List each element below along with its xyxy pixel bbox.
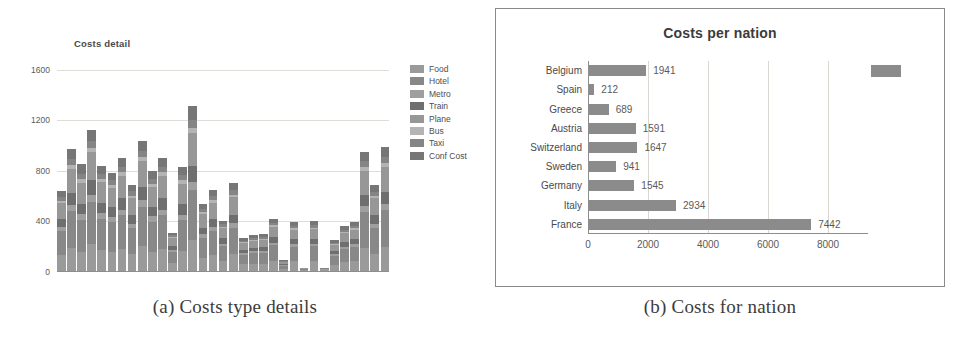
chart-b-bar — [588, 161, 616, 172]
legend-swatch-icon — [410, 102, 424, 110]
chart-a-bar — [77, 164, 86, 270]
chart-a-bar-segment — [108, 207, 117, 217]
chart-a-bar-segment — [57, 203, 66, 219]
chart-a-bar-segment — [158, 176, 167, 198]
chart-a-bar-segment — [138, 187, 147, 200]
chart-b-value-label: 1647 — [644, 142, 666, 153]
chart-a-bar-segment — [118, 176, 127, 198]
chart-a-bar-segment — [108, 188, 117, 208]
chart-b-x-axis — [588, 233, 868, 234]
chart-a-bar-segment — [199, 214, 208, 227]
chart-a-legend-item: Food — [410, 64, 467, 74]
chart-a-bar — [138, 141, 147, 271]
chart-a-bar-segment — [77, 164, 86, 174]
chart-a-y-tick-label: 1200 — [31, 115, 50, 125]
chart-a-bar — [168, 233, 177, 271]
chart-a-y-tick-label: 1600 — [31, 65, 50, 75]
caption-b: (b) Costs for nation — [500, 296, 940, 318]
chart-b-bar — [588, 219, 811, 230]
chart-a-bar-segment — [97, 166, 106, 174]
chart-a-bar-segment — [67, 169, 76, 193]
chart-a-bars — [57, 69, 389, 271]
chart-a-bar-segment — [87, 130, 96, 141]
chart-a-bar-segment — [87, 195, 96, 202]
chart-b-row: Belgium1941 — [588, 65, 858, 77]
chart-b-x-tick-label: 4000 — [697, 239, 719, 250]
chart-a-bar — [249, 235, 258, 270]
chart-a-bar-segment — [370, 254, 379, 270]
chart-a-bar — [330, 240, 339, 270]
chart-a-bar-segment — [188, 106, 197, 119]
panel-b-costs-per-nation: Costs per nation Belgium1941Spain212Gree… — [495, 8, 945, 287]
chart-b-bar — [588, 65, 646, 76]
chart-b-value-label: 1941 — [653, 65, 675, 76]
chart-b-x-tick-label: 8000 — [817, 239, 839, 250]
chart-a-bar — [67, 149, 76, 270]
chart-b-row: Italy2934 — [588, 199, 858, 211]
chart-a-bar — [97, 166, 106, 271]
chart-a-bar — [128, 185, 137, 271]
chart-a-bar-segment — [381, 210, 390, 247]
chart-a-bar — [290, 222, 299, 271]
chart-a-bar-segment — [158, 158, 167, 167]
chart-a-bar-segment — [360, 152, 369, 161]
chart-a-bar — [118, 158, 127, 270]
chart-a-bar-segment — [360, 248, 369, 270]
legend-swatch-icon — [410, 65, 424, 73]
chart-b-bar — [588, 104, 609, 115]
chart-b-category-label: Greece — [549, 104, 582, 115]
chart-b-row: France7442 — [588, 218, 858, 230]
chart-a-bar — [259, 234, 268, 271]
chart-a-bar-segment — [77, 220, 86, 252]
chart-a-bar-segment — [290, 247, 299, 262]
chart-b-row: Spain212 — [588, 84, 858, 96]
chart-a-bar-segment — [209, 219, 218, 227]
chart-b-category-label: France — [551, 219, 582, 230]
chart-a-bar-segment — [118, 249, 127, 270]
chart-a-bar-segment — [209, 255, 218, 270]
legend-swatch-icon — [410, 90, 424, 98]
chart-a-bar-segment — [118, 198, 127, 209]
chart-a-bar-segment — [199, 258, 208, 271]
chart-a-bar-segment — [188, 166, 197, 182]
chart-a-bar-segment — [138, 161, 147, 187]
chart-a-bar-segment — [350, 230, 359, 240]
chart-a-bar-segment — [87, 244, 96, 271]
chart-a-bar-segment — [370, 185, 379, 192]
panel-a-costs-detail: Costs detail 040080012001600 FoodHotelMe… — [0, 0, 490, 290]
chart-a-bar-segment — [360, 212, 369, 248]
chart-a-bar-segment — [128, 185, 137, 192]
chart-a-bar — [87, 130, 96, 271]
chart-b-value-label: 2934 — [683, 200, 705, 211]
chart-b-legend-swatch — [871, 65, 901, 77]
chart-a-bar — [340, 226, 349, 270]
chart-a-bar-segment — [97, 203, 106, 213]
chart-b-value-label: 1545 — [641, 180, 663, 191]
chart-a-bar-segment — [148, 222, 157, 252]
figure-two-panel-charts: Costs detail 040080012001600 FoodHotelMe… — [0, 0, 980, 347]
chart-a-bar-segment — [128, 254, 137, 270]
chart-a-bar-segment — [360, 171, 369, 195]
chart-a-x-axis — [57, 271, 389, 273]
chart-a-bar — [370, 185, 379, 271]
caption-a: (a) Costs type details — [0, 296, 470, 318]
chart-a-bar-segment — [229, 254, 238, 270]
chart-a-bar-segment — [249, 264, 258, 271]
chart-a-bar-segment — [87, 180, 96, 194]
chart-a-bar-segment — [381, 167, 390, 192]
chart-a-legend-item: Metro — [410, 89, 467, 99]
chart-a-bar-segment — [168, 263, 177, 271]
chart-b-row: Sweden941 — [588, 161, 858, 173]
chart-a-bar-segment — [259, 264, 268, 271]
chart-a-bar-segment — [178, 184, 187, 205]
chart-a-bar — [148, 171, 157, 271]
chart-a-bar-segment — [269, 245, 278, 261]
chart-a-bar-segment — [158, 198, 167, 209]
chart-a-bar-segment — [77, 204, 86, 215]
chart-a-bar — [269, 219, 278, 271]
chart-a-bar — [108, 173, 117, 271]
chart-b-x-tick-label: 2000 — [637, 239, 659, 250]
chart-b-bar — [588, 180, 634, 191]
chart-b-value-label: 1591 — [643, 123, 665, 134]
chart-b-y-axis — [588, 61, 589, 234]
